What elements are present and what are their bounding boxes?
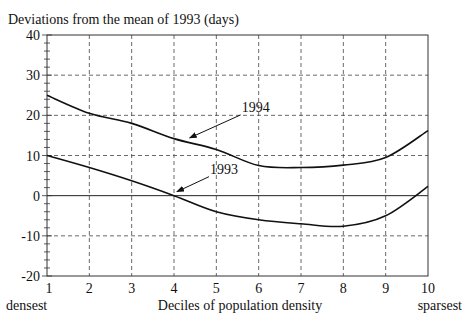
grid xyxy=(47,35,428,276)
x-tick-label: 7 xyxy=(298,281,305,296)
x-tick-label: 1 xyxy=(46,281,53,296)
x-tick-label: 4 xyxy=(171,281,178,296)
chart-title: Deviations from the mean of 1993 (days) xyxy=(8,12,239,28)
y-tick-label: -10 xyxy=(21,229,40,244)
y-tick-label: 30 xyxy=(26,68,40,83)
y-tick-label: 40 xyxy=(26,28,40,43)
x-axis-label: Deciles of population density xyxy=(158,298,322,313)
x-tick-label: 6 xyxy=(255,281,262,296)
x-tick-label: 3 xyxy=(128,281,135,296)
annotation-arrow-1993 xyxy=(177,177,209,192)
annotation-arrow-1994 xyxy=(190,115,241,138)
annotation-label-1993: 1993 xyxy=(210,162,238,177)
y-tick-label: 10 xyxy=(26,149,40,164)
x-tick-label: 10 xyxy=(421,281,435,296)
y-tick-label: -20 xyxy=(21,269,40,284)
x-label-right: sparsest xyxy=(418,298,462,313)
line-chart: Deviations from the mean of 1993 (days) … xyxy=(0,0,469,330)
x-tick-label: 9 xyxy=(382,281,389,296)
x-label-left: densest xyxy=(6,298,47,313)
y-tick-label: 20 xyxy=(26,108,40,123)
series-line-1994 xyxy=(47,95,428,167)
y-tick-label: 0 xyxy=(33,189,40,204)
annotations: 19941993 xyxy=(177,100,270,192)
x-tick-label: 8 xyxy=(340,281,347,296)
annotation-label-1994: 1994 xyxy=(242,100,270,115)
x-tick-label: 5 xyxy=(213,281,220,296)
x-tick-label: 2 xyxy=(86,281,93,296)
